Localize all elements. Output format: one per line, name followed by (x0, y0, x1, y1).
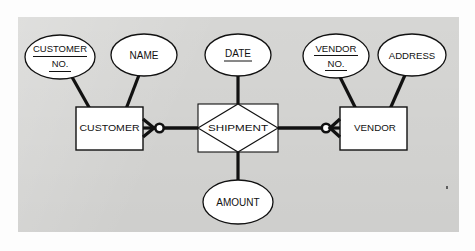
relationship-shipment-label: SHIPMENT (208, 122, 268, 133)
cardinality-crowfoot-vendor-icon (330, 119, 340, 137)
relationship-shipment[interactable]: SHIPMENT (198, 104, 278, 152)
attribute-vendor-no[interactable]: VENDOR NO. (303, 34, 369, 78)
attribute-address-label: ADDRESS (389, 50, 435, 61)
attribute-customer-no-line1: CUSTOMER (33, 43, 87, 54)
attribute-customer-no[interactable]: CUSTOMER NO. (25, 35, 95, 79)
er-diagram: CUSTOMER NO. NAME DATE VENDOR N (0, 0, 475, 251)
attribute-name-label: NAME (130, 50, 159, 61)
attribute-amount-label: AMOUNT (216, 197, 259, 208)
attribute-date-label: DATE (225, 48, 251, 59)
attribute-vendor-no-line2: NO. (327, 58, 344, 69)
cardinality-zero-circle-customer-icon (155, 124, 163, 132)
entity-customer[interactable]: CUSTOMER (76, 107, 143, 150)
attribute-name[interactable]: NAME (111, 34, 177, 76)
attribute-date[interactable]: DATE (205, 34, 271, 76)
entity-customer-label: CUSTOMER (80, 122, 140, 133)
screenshot-root: CUSTOMER NO. NAME DATE VENDOR N (0, 0, 475, 251)
connector-customerno-to-customer (72, 77, 90, 109)
entity-vendor[interactable]: VENDOR (340, 107, 407, 150)
connector-address-to-vendor (390, 75, 405, 109)
connector-vendorno-to-vendor (340, 77, 356, 109)
cardinality-crowfoot-customer-icon (143, 119, 154, 137)
connector-name-to-customer (126, 75, 139, 109)
attribute-address[interactable]: ADDRESS (378, 34, 446, 76)
attribute-customer-no-line2: NO. (52, 58, 69, 69)
entity-vendor-label: VENDOR (354, 122, 396, 133)
attribute-amount[interactable]: AMOUNT (203, 180, 273, 224)
attribute-vendor-no-line1: VENDOR (315, 43, 356, 54)
